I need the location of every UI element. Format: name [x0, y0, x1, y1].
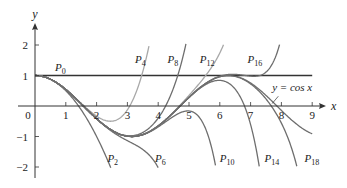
y-tick-label: 1 [23, 70, 29, 82]
y-axis-label: y [31, 7, 38, 21]
y-tick-label: 2 [23, 39, 29, 51]
x-tick-label: 1 [63, 109, 69, 121]
x-tick-label: 6 [217, 109, 223, 121]
taylor-p6-curve [35, 76, 158, 168]
y-tick-label: −1 [16, 131, 28, 143]
x-tick-label: 7 [248, 109, 254, 121]
taylor-p12-curve [35, 45, 224, 137]
x-axis-arrow-icon [319, 103, 326, 109]
curve-label: P8 [166, 53, 178, 68]
taylor-p16-curve [35, 45, 280, 137]
x-tick-label: 2 [94, 109, 100, 121]
x-tick-label: 0 [25, 109, 31, 121]
x-tick-label: 9 [309, 109, 315, 121]
curve-label: P6 [154, 152, 166, 167]
x-tick-label: 3 [125, 109, 131, 121]
curve-label: P10 [219, 152, 235, 167]
cos-label-pointer [272, 96, 278, 103]
curve-label: y = cos x [271, 81, 312, 93]
x-tick-label: 4 [155, 109, 161, 121]
curve-label: P16 [247, 53, 263, 68]
curve-label: P12 [199, 53, 215, 68]
x-axis-label: x [330, 99, 337, 113]
x-tick-label: 8 [279, 109, 285, 121]
curve-label: P4 [134, 53, 146, 68]
curve-label: P14 [263, 152, 279, 167]
curve-label: P2 [106, 152, 118, 167]
y-axis-arrow-icon [32, 23, 38, 30]
curve-label: P18 [304, 152, 320, 167]
curve-label: P0 [54, 61, 66, 76]
taylor-cos-chart: 0123456789−2−112xyP0P2P4P6P8P10P12P14P16… [0, 0, 347, 188]
x-tick-label: 5 [186, 109, 192, 121]
taylor-p4-curve [35, 46, 149, 121]
axes-group [18, 23, 326, 178]
y-tick-label: −2 [16, 161, 28, 173]
